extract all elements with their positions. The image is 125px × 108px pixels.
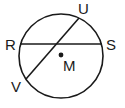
label-u: U xyxy=(78,0,89,17)
circle-diagram: R S U V M xyxy=(0,0,125,108)
label-r: R xyxy=(5,36,16,53)
label-v: V xyxy=(11,78,21,95)
label-m: M xyxy=(63,57,76,74)
label-s: S xyxy=(106,36,116,53)
